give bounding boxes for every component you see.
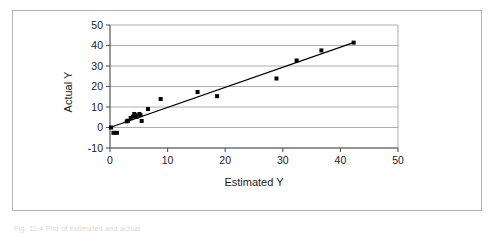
y-axis-title: Actual Y xyxy=(62,71,74,112)
x-tick-label-20: 20 xyxy=(219,154,231,166)
scatter-chart: -1001020304050 01020304050 Estimated Y A… xyxy=(0,0,498,234)
y-tick-label-40: 40 xyxy=(91,39,103,51)
data-point xyxy=(139,113,143,117)
x-tick-label-0: 0 xyxy=(107,154,113,166)
y-tick-label-0: 0 xyxy=(97,121,103,133)
data-point xyxy=(215,94,219,98)
data-point xyxy=(111,131,115,135)
x-axis-tick-labels: 01020304050 xyxy=(107,154,404,166)
y-tick-label-20: 20 xyxy=(91,80,103,92)
data-point xyxy=(295,58,299,62)
figure-caption: Fig. 11.4 Plot of estimated and actual xyxy=(14,225,314,234)
x-axis-title: Estimated Y xyxy=(224,176,284,188)
y-tick-label-50: 50 xyxy=(91,19,103,31)
data-point xyxy=(352,41,356,45)
y-tick-label--10: -10 xyxy=(88,142,103,154)
x-tick-label-40: 40 xyxy=(335,154,347,166)
data-point xyxy=(109,126,113,130)
data-point xyxy=(140,119,144,123)
y-tick-label-30: 30 xyxy=(91,60,103,72)
data-point xyxy=(274,77,278,81)
y-axis-tick-labels: -1001020304050 xyxy=(88,19,103,154)
data-point xyxy=(319,48,323,52)
data-point xyxy=(115,131,119,135)
data-point xyxy=(146,107,150,111)
fit-line xyxy=(110,42,354,127)
y-tick-label-10: 10 xyxy=(91,101,103,113)
regression-line xyxy=(110,42,354,127)
x-tick-label-30: 30 xyxy=(277,154,289,166)
x-tick-label-10: 10 xyxy=(162,154,174,166)
data-point xyxy=(159,97,163,101)
data-point xyxy=(196,90,200,94)
x-tick-label-50: 50 xyxy=(392,154,404,166)
